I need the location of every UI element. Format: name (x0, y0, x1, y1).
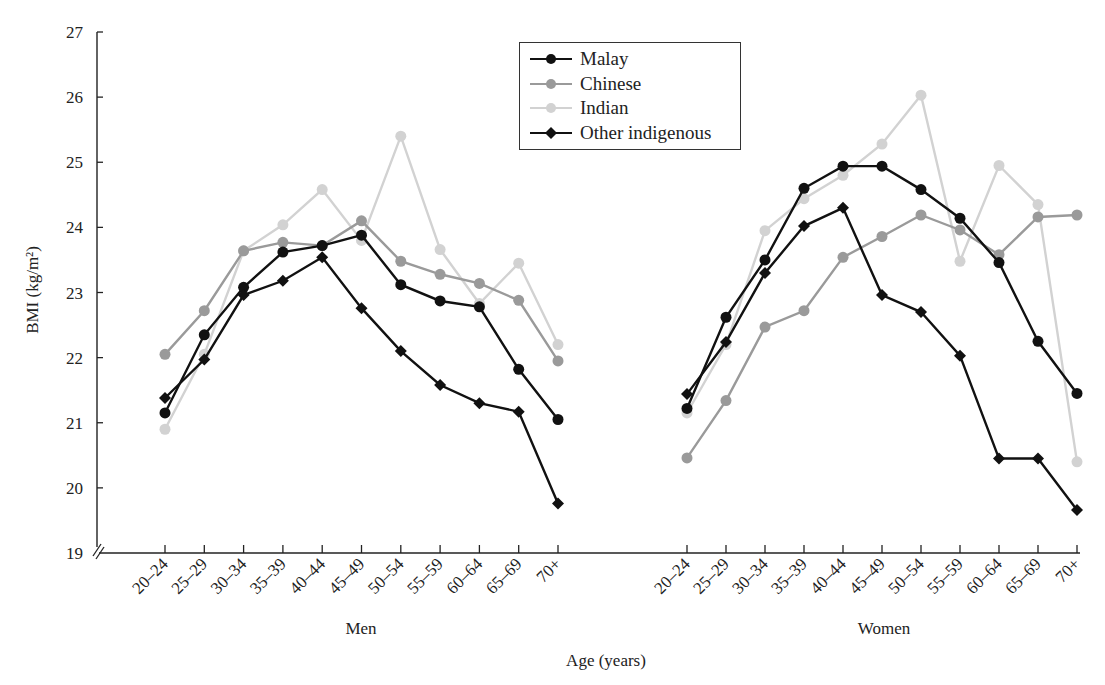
legend-marker-circle-icon (528, 52, 574, 66)
data-point-circle (474, 278, 485, 289)
data-point-circle (955, 213, 966, 224)
series-line-chinese (687, 215, 1077, 458)
x-tick-label: 65–69 (482, 554, 525, 597)
data-point-circle (799, 305, 810, 316)
legend-item-other-indigenous: Other indigenous (528, 121, 740, 146)
data-point-circle (1033, 199, 1044, 210)
data-point-circle (553, 414, 564, 425)
x-tick-label: 70+ (1052, 554, 1084, 586)
x-tick-label: 50–54 (884, 554, 928, 598)
data-point-circle (435, 269, 446, 280)
data-point-circle (435, 244, 446, 255)
x-tick-label: 70+ (533, 554, 565, 586)
data-point-circle (916, 184, 927, 195)
data-point-circle (395, 131, 406, 142)
data-point-circle (916, 90, 927, 101)
data-point-diamond (837, 202, 849, 214)
legend-marker-circle-icon (528, 101, 574, 115)
data-point-circle (955, 224, 966, 235)
x-tick-label: 30–34 (728, 554, 772, 598)
y-tick-label: 26 (66, 88, 83, 107)
data-point-diamond (993, 453, 1005, 465)
x-tick-label: 60–64 (962, 554, 1006, 598)
data-point-circle (395, 256, 406, 267)
data-point-circle (553, 355, 564, 366)
x-tick-label: 55–59 (923, 554, 966, 597)
data-point-circle (317, 240, 328, 251)
legend-item-chinese: Chinese (528, 72, 740, 97)
data-point-circle (395, 279, 406, 290)
x-tick-label: 40–44 (806, 554, 850, 598)
women-panel-label: Women (858, 619, 911, 638)
data-point-circle (760, 254, 771, 265)
legend-marker-diamond-icon (528, 126, 574, 140)
x-tick-label: 30–34 (207, 554, 251, 598)
men-panel-label: Men (345, 619, 377, 638)
x-tick-label: 20–24 (128, 554, 172, 598)
data-point-circle (994, 160, 1005, 171)
data-point-circle (1072, 456, 1083, 467)
data-point-circle (160, 424, 171, 435)
x-axis: 20–2425–2930–3435–3940–4445–4950–5455–59… (99, 545, 1084, 598)
data-point-circle (877, 161, 888, 172)
series-line-other-indigenous (165, 257, 558, 503)
data-point-circle (356, 230, 367, 241)
y-tick-label: 20 (66, 479, 83, 498)
legend: Malay Chinese Indian Other indigenous (519, 42, 741, 150)
legend-label: Indian (580, 97, 629, 119)
data-point-circle (317, 184, 328, 195)
x-tick-label: 45–49 (845, 554, 888, 597)
data-point-circle (238, 245, 249, 256)
data-point-circle (513, 295, 524, 306)
series-line-indian (687, 95, 1077, 462)
legend-label: Other indigenous (580, 122, 711, 144)
series-line-malay (687, 166, 1077, 408)
data-point-circle (199, 305, 210, 316)
legend-marker-circle-icon (528, 77, 574, 91)
y-tick-label: 21 (66, 414, 83, 433)
data-point-circle (553, 339, 564, 350)
data-point-circle (916, 210, 927, 221)
x-tick-label: 35–39 (767, 554, 810, 597)
x-tick-label: 50–54 (364, 554, 408, 598)
x-tick-label: 35–39 (246, 554, 289, 597)
y-tick-label: 22 (66, 349, 83, 368)
data-point-diamond (513, 406, 525, 418)
data-point-circle (1072, 388, 1083, 399)
x-tick-label: 40–44 (286, 554, 330, 598)
data-point-circle (1033, 336, 1044, 347)
data-point-circle (277, 247, 288, 258)
x-tick-label: 45–49 (325, 554, 368, 597)
data-point-circle (356, 215, 367, 226)
legend-item-malay: Malay (528, 47, 740, 72)
data-point-circle (277, 219, 288, 230)
data-point-circle (760, 322, 771, 333)
data-point-diamond (277, 275, 289, 287)
x-tick-label: 25–29 (689, 554, 732, 597)
data-point-circle (513, 258, 524, 269)
y-tick-label: 25 (66, 153, 83, 172)
data-point-circle (877, 139, 888, 150)
x-tick-label: 60–64 (443, 554, 487, 598)
data-point-circle (160, 349, 171, 360)
x-axis-title: Age (years) (566, 651, 646, 670)
data-point-circle (838, 161, 849, 172)
data-point-circle (721, 395, 732, 406)
data-point-circle (474, 301, 485, 312)
data-point-diamond (876, 289, 888, 301)
legend-label: Chinese (580, 73, 641, 95)
data-point-circle (760, 225, 771, 236)
data-point-circle (513, 364, 524, 375)
data-point-circle (199, 329, 210, 340)
data-point-circle (1033, 211, 1044, 222)
data-point-circle (721, 312, 732, 323)
series-line-other-indigenous (687, 208, 1077, 510)
y-tick-label: 19 (66, 544, 83, 563)
data-point-circle (435, 295, 446, 306)
data-point-circle (160, 407, 171, 418)
data-point-circle (955, 256, 966, 267)
y-tick-label: 24 (66, 218, 84, 237)
data-point-diamond (552, 498, 564, 510)
data-point-circle (799, 183, 810, 194)
data-point-diamond (473, 397, 485, 409)
